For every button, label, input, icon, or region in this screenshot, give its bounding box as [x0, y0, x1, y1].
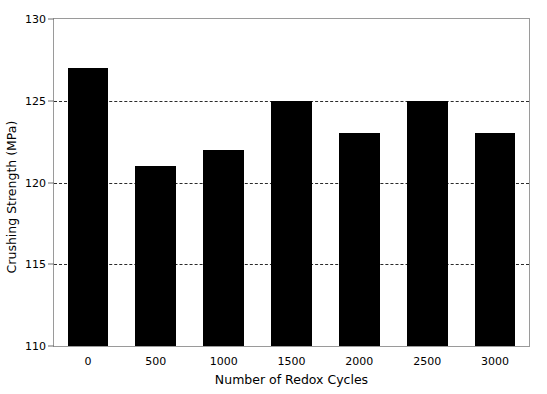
y-tick-mark [48, 182, 54, 183]
y-tick-label: 120 [25, 176, 46, 189]
y-tick-label: 125 [25, 94, 46, 107]
plot-area: 110115120125130050010001500200025003000 [53, 18, 530, 347]
x-tick-label: 3000 [481, 355, 509, 368]
bar [135, 166, 176, 346]
x-axis-title: Number of Redox Cycles [53, 372, 530, 387]
y-tick-mark [48, 100, 54, 101]
bar [407, 101, 448, 346]
y-tick-label: 110 [25, 340, 46, 353]
x-tick-label: 2500 [413, 355, 441, 368]
bar [475, 133, 516, 346]
x-tick-label: 2000 [345, 355, 373, 368]
bar [68, 68, 109, 346]
bar [271, 101, 312, 346]
x-tick-label: 0 [84, 355, 91, 368]
y-tick-mark [48, 346, 54, 347]
x-tick-label: 1000 [210, 355, 238, 368]
y-tick-label: 115 [25, 258, 46, 271]
x-tick-label: 500 [145, 355, 166, 368]
y-axis-title: Crushing Strength (MPa) [0, 0, 22, 394]
bar [203, 150, 244, 346]
plot-inner: 110115120125130050010001500200025003000 [54, 19, 529, 346]
y-tick-mark [48, 264, 54, 265]
y-tick-mark [48, 19, 54, 20]
y-tick-label: 130 [25, 13, 46, 26]
x-tick-label: 1500 [278, 355, 306, 368]
bar [339, 133, 380, 346]
chart-figure: Crushing Strength (MPa) 1101151201251300… [0, 0, 547, 394]
